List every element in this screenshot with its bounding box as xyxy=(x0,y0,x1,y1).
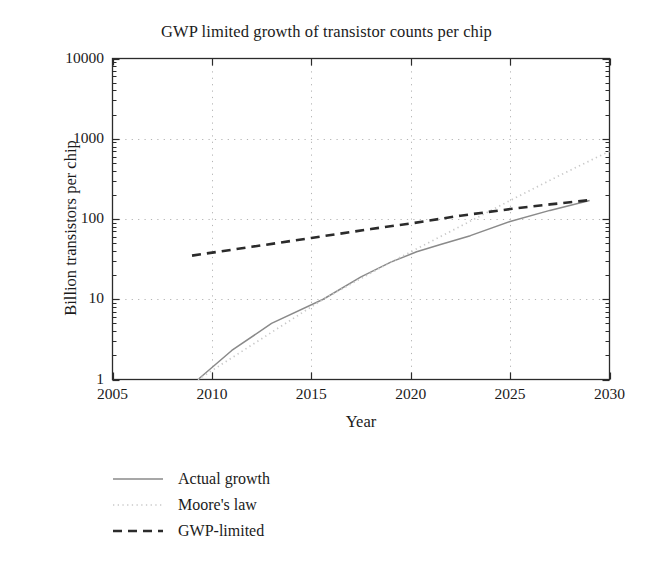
legend-line-swatch-icon xyxy=(112,472,164,486)
series-line xyxy=(198,201,590,380)
legend-line-swatch-icon xyxy=(112,524,164,538)
gridlines xyxy=(113,59,610,380)
legend-item[interactable]: Moore's law xyxy=(112,492,432,518)
data-series xyxy=(192,151,609,379)
series-line xyxy=(198,151,610,379)
chart-legend: Actual growthMoore's lawGWP-limited xyxy=(112,466,432,544)
legend-label: GWP-limited xyxy=(178,522,264,540)
chart-figure: GWP limited growth of transistor counts … xyxy=(0,0,653,564)
legend-line-swatch-icon xyxy=(112,498,164,512)
legend-label: Actual growth xyxy=(178,470,270,488)
legend-item[interactable]: GWP-limited xyxy=(112,518,432,544)
legend-item[interactable]: Actual growth xyxy=(112,466,432,492)
legend-label: Moore's law xyxy=(178,496,257,514)
series-line xyxy=(192,200,590,255)
